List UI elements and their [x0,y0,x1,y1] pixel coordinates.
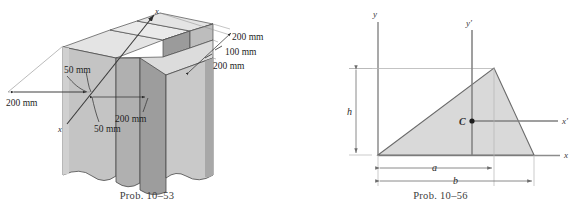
x-prime-axis-label: x′ [561,116,569,126]
caption-prob-10-53: Prob. 10–53 [0,190,294,201]
y-axis-label: y [372,9,377,19]
dim-label-web-thickness-right: 100 mm [225,47,257,57]
figure-prob-10-56: y x y′ x′ C h [294,0,587,215]
dim-height [349,69,372,156]
figure-page: x x 200 mm 50 mm 200 mm [0,0,587,215]
x-axis-label-lower: x [57,124,62,134]
x-axis-label-upper: x [154,6,159,16]
right-wing-side-face [205,58,213,177]
prob-10-53-drawing: x x 200 mm 50 mm 200 mm [0,0,294,215]
triangle-shape [378,68,534,155]
centroid-point [469,118,474,123]
cross-section-solid [63,13,213,195]
figure-prob-10-53: x x 200 mm 50 mm 200 mm [0,0,294,215]
dim-label-flange-depth-right: 200 mm [213,61,245,71]
dim-label-height: h [347,106,352,117]
dim-label-flange-width-mid: 200 mm [115,114,147,124]
y-prime-axis-label: y′ [465,18,473,28]
centroid-label: C [459,116,466,127]
x-axis-label: x [563,150,568,160]
dim-label-web-thickness-bottom: 50 mm [94,124,121,134]
caption-prob-10-56: Prob. 10–56 [294,190,587,201]
dim-label-flange-width-left: 200 mm [6,98,38,108]
prob-10-56-drawing: y x y′ x′ C h [294,0,587,215]
dim-label-a: a [432,162,437,173]
web-right-face [140,58,166,195]
dim-label-b: b [453,175,458,186]
dim-label-web-thickness-top: 50 mm [64,65,91,75]
dim-label-top-right-depth: 200 mm [232,32,264,42]
